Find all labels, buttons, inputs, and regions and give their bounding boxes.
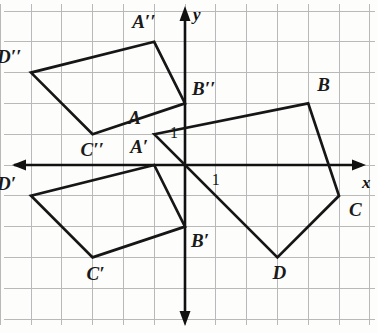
vertex-label: D′ [0,174,16,193]
x-axis-label: x [362,174,371,191]
vertex-label: A [128,108,141,127]
quadrilateral-2 [31,42,185,134]
vertex-label: D [272,263,286,282]
vertex-label: D′′ [0,47,21,66]
vertex-label: C′′ [81,140,104,159]
x-axis-tick-label: 1 [212,172,220,188]
vertex-label: B′ [191,231,209,250]
vertex-label: A′ [130,137,148,156]
vertex-label: A′′ [132,12,155,31]
vertex-label: C [349,200,362,219]
quadrilateral-1 [31,165,185,257]
geometry-canvas [0,0,378,333]
coordinate-figure: ABCDA′B′C′D′A′′B′′C′′D′′ x y 1 1 [0,0,378,333]
vertex-label: B [317,75,330,94]
vertex-label: C′ [87,264,105,283]
axes [12,6,366,326]
y-axis-tick-label: 1 [170,125,178,141]
vertex-label: B′′ [192,79,215,98]
y-axis-label: y [193,6,201,23]
